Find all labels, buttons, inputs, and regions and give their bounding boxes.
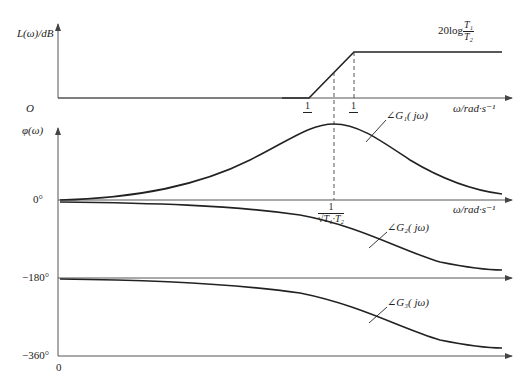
g2-curve-label: ∠G₂( jω) <box>387 222 429 233</box>
high-freq-gain-label: 20logT₁T₂ <box>438 20 474 42</box>
magnitude-x-label: ω/rad·s⁻¹ <box>453 103 495 114</box>
magnitude-asymptote <box>282 52 502 98</box>
g1-phase-curve <box>60 124 502 200</box>
phase-tick-360: −360° <box>22 350 49 361</box>
phase-tick-180: −180° <box>22 272 49 283</box>
phase-origin-label: 0 <box>56 362 62 373</box>
break1-label: 1T₁ <box>303 101 312 123</box>
g3-phase-curve <box>60 279 502 348</box>
g2-phase-curve <box>60 202 502 270</box>
g1-curve-label: ∠G₁( jω) <box>386 110 428 121</box>
phase-tick-0: 0° <box>33 194 43 205</box>
g3-curve-label: ∠G₃( jω) <box>387 297 429 308</box>
center-freq-label: 1√T₁·T₂ <box>318 202 344 224</box>
phase-x-label: ω/rad·s⁻¹ <box>453 204 495 215</box>
bode-diagram <box>0 0 526 384</box>
g2-leader <box>369 232 387 248</box>
break2-label: 1T₂ <box>349 101 358 123</box>
magnitude-origin-label: O <box>26 103 34 114</box>
magnitude-y-label: L(ω)/dB <box>17 28 54 39</box>
phase-y-label: φ(ω) <box>22 125 43 136</box>
